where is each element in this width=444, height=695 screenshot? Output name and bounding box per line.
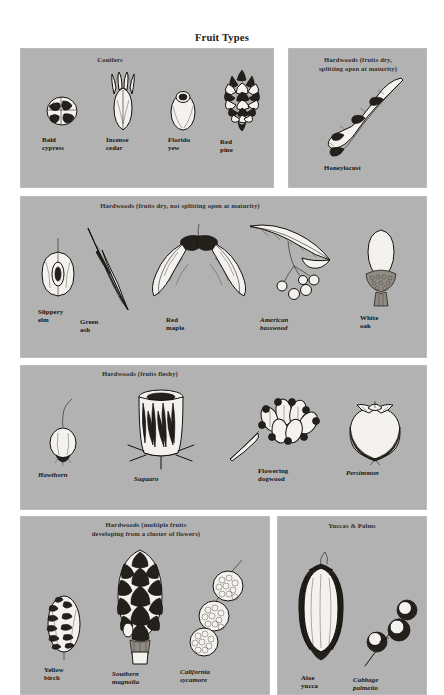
persimmon-illustration (346, 399, 404, 465)
specimen-slippery-elm: Slippery elm (38, 236, 78, 298)
caption-red-maple: Red maple (166, 316, 184, 333)
caption-red-pine: Red pine (220, 138, 233, 155)
caption-hawthorn: Hawthorn (38, 471, 68, 479)
caption-saguaro: Saguaro (134, 475, 159, 483)
panel-title-conifers: Conifers (55, 56, 165, 65)
specimen-flowering-dogwood: Flowering dogwood (228, 397, 326, 465)
flowering-dogwood-illustration (228, 397, 326, 465)
hawthorn-illustration (46, 397, 86, 467)
specimen-bald-cypress: Bald cypress (42, 90, 82, 130)
specimen-hawthorn: Hawthorn (46, 397, 86, 467)
panel-title-hardwoods-dry-not-splitting: Hardwoods (fruits dry, not splitting ope… (60, 202, 300, 211)
caption-bald-cypress: Bald cypress (42, 136, 64, 153)
specimen-green-ash: Green ash (82, 226, 138, 312)
red-maple-illustration (152, 222, 246, 312)
caption-slippery-elm: Slippery elm (38, 308, 63, 325)
specimen-persimmon: Persimmon (346, 399, 404, 465)
caption-flowering-dogwood: Flowering dogwood (258, 467, 288, 484)
panel-hardwoods-fleshy: Hardwoods (fruits fleshy) Hawthorn (20, 365, 427, 510)
caption-green-ash: Green ash (80, 318, 99, 335)
caption-aloe-yucca: Aloe yucca (301, 674, 318, 691)
specimen-red-maple: Red maple (152, 222, 246, 312)
specimen-florida-yew: Florido yew (168, 88, 198, 132)
saguaro-illustration (126, 387, 196, 471)
caption-cabbage-palmetto: Cabbage palmetto (353, 676, 378, 693)
caption-white-oak: White oak (360, 314, 378, 331)
specimen-california-sycamore: California sycamore (184, 556, 248, 664)
panel-title-hardwoods-multiple: Hardwoods (multiple fruits developing fr… (48, 521, 244, 538)
honeylocust-illustration (310, 78, 406, 160)
specimen-american-basswood: American basswood (248, 220, 342, 312)
california-sycamore-illustration (184, 556, 248, 664)
panel-yuccas-palms: Yuccas & Palms Aloe yucca (277, 516, 427, 695)
caption-honeylocust: Honeylocust (324, 164, 361, 172)
green-ash-illustration (82, 226, 138, 312)
figure-plate: Fruit Types Conifers Bald cypress (0, 0, 444, 695)
caption-florida-yew: Florido yew (168, 136, 190, 153)
specimen-incense-cedar: Incense cedar (106, 70, 140, 132)
panel-title-hardwoods-dry-splitting: Hardwoods (fruits dry, splitting open at… (296, 56, 420, 73)
specimen-yellow-birch: Yellow birch (42, 592, 86, 662)
specimen-saguaro: Saguaro (126, 387, 196, 471)
incense-cedar-illustration (106, 70, 140, 132)
panel-hardwoods-multiple: Hardwoods (multiple fruits developing fr… (20, 516, 270, 695)
florida-yew-illustration (168, 88, 198, 132)
caption-incense-cedar: Incense cedar (106, 136, 129, 153)
specimen-cabbage-palmetto: Cabbage palmetto (359, 592, 421, 672)
page-title: Fruit Types (0, 32, 444, 43)
southern-magnolia-illustration (110, 548, 170, 668)
specimen-aloe-yucca: Aloe yucca (295, 550, 347, 670)
specimen-red-pine: Red pine (220, 68, 264, 134)
aloe-yucca-illustration (295, 550, 347, 670)
specimen-white-oak: White oak (360, 228, 402, 310)
bald-cypress-illustration (42, 90, 82, 130)
panel-title-yuccas-palms: Yuccas & Palms (289, 522, 415, 531)
panel-conifers: Conifers Bald cypress (20, 48, 274, 188)
red-pine-illustration (220, 68, 264, 134)
slippery-elm-illustration (38, 236, 78, 298)
panel-hardwoods-dry-splitting: Hardwoods (fruits dry, splitting open at… (288, 48, 427, 188)
caption-persimmon: Persimmon (346, 469, 379, 477)
white-oak-illustration (360, 228, 402, 310)
american-basswood-illustration (248, 220, 342, 312)
caption-american-basswood: American basswood (260, 316, 288, 333)
specimen-southern-magnolia: Southern magnolia (110, 548, 170, 668)
specimen-honeylocust: Honeylocust (310, 78, 406, 160)
caption-california-sycamore: California sycamore (180, 668, 210, 685)
caption-southern-magnolia: Southern magnolia (112, 670, 139, 687)
caption-yellow-birch: Yellow birch (44, 666, 64, 683)
cabbage-palmetto-illustration (359, 592, 421, 672)
panel-title-hardwoods-fleshy: Hardwoods (fruits fleshy) (60, 370, 220, 379)
panel-hardwoods-dry-not-splitting: Hardwoods (fruits dry, not splitting ope… (20, 196, 427, 358)
yellow-birch-illustration (42, 592, 86, 662)
